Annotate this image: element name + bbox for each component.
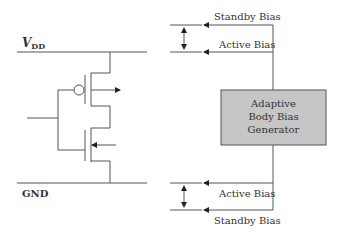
vdd-label: VDD <box>22 36 45 51</box>
gnd-rail: GND <box>17 183 147 199</box>
top-standby-bias-label: Standby Bias <box>214 11 281 22</box>
body-bias-diagram: VDD GND Standby Bias <box>0 0 340 233</box>
svg-text:Adaptive: Adaptive <box>250 98 296 109</box>
adaptive-body-bias-generator: Adaptive Body Bias Generator <box>221 90 326 145</box>
bottom-active-bias-label: Active Bias <box>218 188 275 199</box>
pmos-gate-bubble <box>74 85 84 95</box>
cmos-inverter <box>27 52 120 183</box>
bottom-standby-bias-label: Standby Bias <box>214 215 281 226</box>
top-active-bias-label: Active Bias <box>218 39 275 50</box>
svg-text:Generator: Generator <box>248 124 300 135</box>
gnd-label: GND <box>22 188 49 199</box>
svg-text:Body Bias: Body Bias <box>248 111 298 122</box>
vdd-rail: VDD <box>17 36 147 52</box>
top-bias-group <box>170 25 273 90</box>
bottom-bias-group <box>170 145 273 210</box>
